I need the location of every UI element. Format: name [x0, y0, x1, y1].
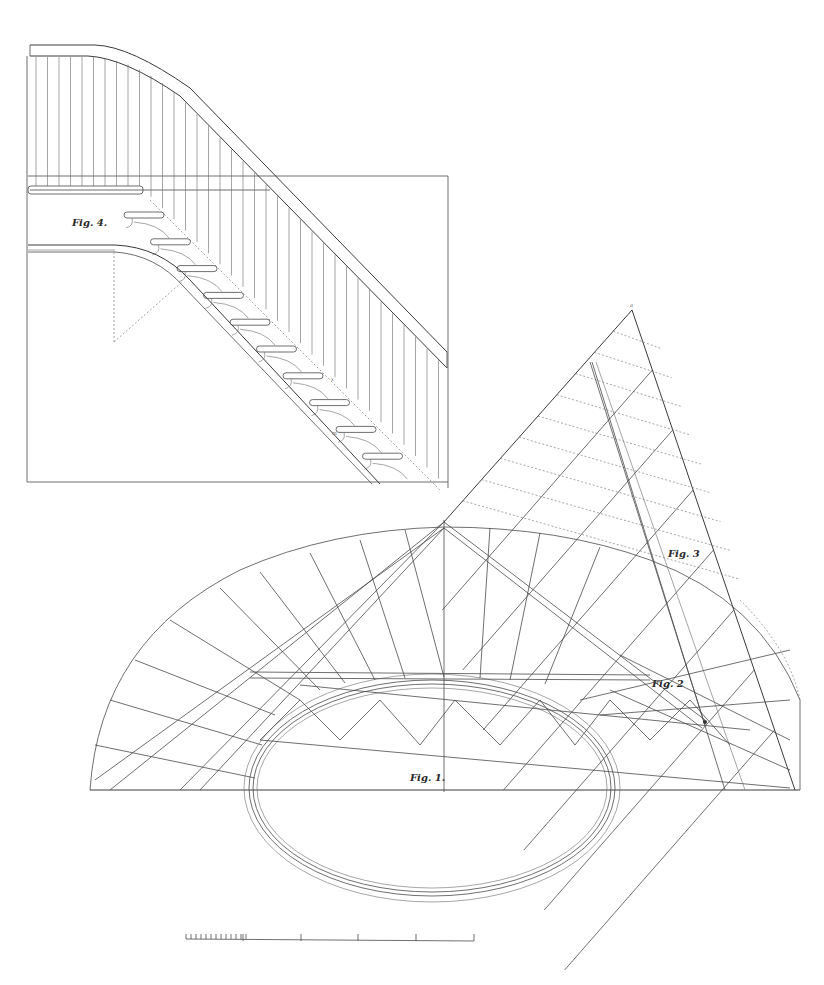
balusters: [36, 57, 439, 479]
svg-text:m: m: [332, 430, 337, 436]
fig4-label: Fig. 4.: [71, 217, 107, 228]
fig2-detail: [580, 600, 800, 770]
fig2-label: Fig. 2: [651, 678, 684, 689]
fig1-label: Fig. 1.: [409, 772, 445, 783]
scale-bar: [186, 934, 474, 941]
winder-lines: [95, 528, 600, 778]
fig4-elevation: Fig. 4. x m: [27, 45, 448, 490]
svg-text:a: a: [630, 302, 633, 308]
svg-text:x: x: [331, 376, 334, 382]
fig3-label: Fig. 3: [667, 548, 700, 559]
fig1-plan: Fig. 1.: [90, 520, 800, 902]
drawing-canvas: Fig. 4. x m Fig. 1.: [0, 0, 824, 985]
development-grid: [442, 331, 774, 970]
fig3-development: Fig. 3 Fig. 2 a: [442, 302, 795, 970]
